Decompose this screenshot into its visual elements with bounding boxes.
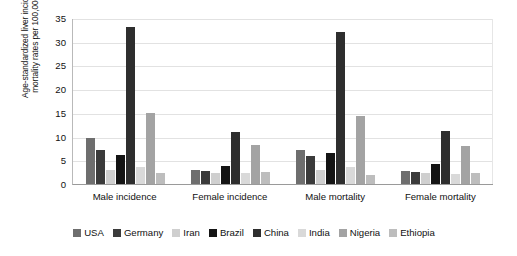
legend-swatch-icon — [389, 229, 397, 237]
bar — [431, 164, 440, 184]
legend-item[interactable]: USA — [73, 228, 104, 238]
bar — [86, 138, 95, 184]
bar — [411, 172, 420, 184]
legend-item-label: India — [309, 228, 330, 238]
legend-item-label: Ethiopia — [400, 228, 435, 238]
bar — [346, 167, 355, 184]
bar-group — [284, 19, 389, 184]
legend-item[interactable]: Nigeria — [339, 228, 380, 238]
bar — [251, 145, 260, 184]
bar — [211, 173, 220, 184]
legend-item-label: Germany — [124, 228, 163, 238]
bar-group — [389, 19, 494, 184]
legend-item-label: Brazil — [220, 228, 244, 238]
legend-item-label: USA — [84, 228, 104, 238]
bar — [126, 27, 135, 184]
bar — [336, 32, 345, 184]
x-axis-category-label: Male incidence — [72, 191, 177, 203]
bar — [401, 171, 410, 184]
legend-swatch-icon — [339, 229, 347, 237]
y-axis-tick-labels: 35302520151050 — [40, 19, 66, 185]
bar — [471, 173, 480, 184]
x-axis-category-label: Male mortality — [283, 191, 388, 203]
bar — [421, 173, 430, 184]
bar — [201, 171, 210, 184]
bar — [356, 116, 365, 184]
bar — [221, 166, 230, 184]
bar — [191, 170, 200, 184]
bar — [241, 173, 250, 184]
legend-swatch-icon — [172, 229, 180, 237]
chart-legend: USAGermanyIranBrazilChinaIndiaNigeriaEth… — [0, 228, 517, 238]
legend-item[interactable]: Germany — [113, 228, 163, 238]
bar — [261, 172, 270, 184]
legend-swatch-icon — [253, 229, 261, 237]
y-axis-tick-label: 0 — [40, 180, 66, 190]
bar-group — [178, 19, 283, 184]
bar — [231, 132, 240, 184]
bars-layer — [73, 19, 493, 184]
y-axis-tick-label: 15 — [40, 109, 66, 119]
bar — [316, 170, 325, 184]
y-axis-tick-label: 20 — [40, 85, 66, 95]
legend-item-label: Nigeria — [350, 228, 380, 238]
bar — [306, 156, 315, 184]
bar — [326, 153, 335, 184]
bar-group — [73, 19, 178, 184]
y-axis-tick-label: 30 — [40, 38, 66, 48]
legend-item-label: China — [264, 228, 289, 238]
plot-area — [72, 19, 493, 185]
y-axis-tick-label: 10 — [40, 133, 66, 143]
bar — [461, 146, 470, 184]
bar — [366, 175, 375, 184]
bar — [96, 150, 105, 184]
bar — [106, 170, 115, 184]
bar — [451, 174, 460, 184]
legend-swatch-icon — [298, 229, 306, 237]
bar — [441, 131, 450, 184]
legend-item[interactable]: Ethiopia — [389, 228, 435, 238]
bar — [296, 150, 305, 184]
legend-item[interactable]: China — [253, 228, 289, 238]
legend-item-label: Iran — [183, 228, 200, 238]
y-axis-tick-label: 5 — [40, 156, 66, 166]
bar — [156, 173, 165, 184]
legend-item[interactable]: Iran — [172, 228, 200, 238]
legend-swatch-icon — [73, 229, 81, 237]
legend-swatch-icon — [113, 229, 121, 237]
legend-item[interactable]: Brazil — [209, 228, 244, 238]
bar — [136, 167, 145, 184]
bar — [146, 113, 155, 184]
bar — [116, 155, 125, 184]
y-axis-tick-label: 25 — [40, 61, 66, 71]
legend-swatch-icon — [209, 229, 217, 237]
x-axis-category-label: Female incidence — [177, 191, 282, 203]
bar-chart: Age-standardized liver incidence and mor… — [0, 0, 517, 256]
legend-item[interactable]: India — [298, 228, 330, 238]
x-axis-category-labels: Male incidenceFemale incidenceMale morta… — [72, 191, 493, 207]
x-axis-category-label: Female mortality — [388, 191, 493, 203]
y-axis-tick-label: 35 — [40, 14, 66, 24]
